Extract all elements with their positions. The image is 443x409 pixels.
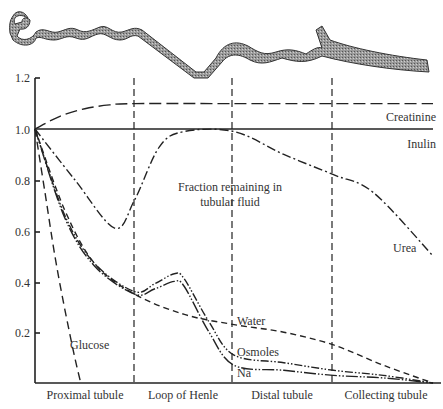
nephron-tubule-shape: [10, 12, 429, 78]
series-creatinine-line: [35, 104, 433, 129]
label-urea: Urea: [393, 241, 417, 255]
y-tick-0-2: 0.2: [15, 326, 30, 340]
y-tick-0-6: 0.6: [15, 225, 30, 239]
label-glucose: Glucose: [70, 338, 109, 352]
label-water: Water: [237, 314, 265, 328]
y-tick-1-2: 1.2: [15, 71, 30, 85]
y-tick-0-4: 0.4: [15, 276, 30, 290]
annotations: Fraction remaining in tubular fluid Crea…: [70, 110, 436, 380]
x-category-labels: Proximal tubule Loop of Henle Distal tub…: [47, 388, 428, 402]
nephron-fraction-chart: 1.2 1.0 0.8 0.6 0.4 0.2 Fraction remaini…: [0, 0, 443, 409]
category-collecting-tubule: Collecting tubule: [345, 388, 428, 402]
category-loop-of-henle: Loop of Henle: [148, 388, 218, 402]
label-inulin: Inulin: [407, 137, 436, 151]
y-tick-0-8: 0.8: [15, 174, 30, 188]
chart-title-line2: tubular fluid: [200, 195, 260, 209]
segment-dividers: [134, 78, 332, 383]
nephron-illustration: [10, 12, 429, 78]
y-tick-labels: 1.2 1.0 0.8 0.6 0.4 0.2: [15, 71, 30, 340]
category-proximal-tubule: Proximal tubule: [47, 388, 124, 402]
label-na: Na: [237, 366, 252, 380]
category-distal-tubule: Distal tubule: [251, 388, 313, 402]
chart-title-line1: Fraction remaining in: [178, 180, 282, 194]
y-tick-1-0: 1.0: [15, 123, 30, 137]
label-osmoles: Osmoles: [237, 345, 279, 359]
label-creatinine: Creatinine: [386, 110, 436, 124]
